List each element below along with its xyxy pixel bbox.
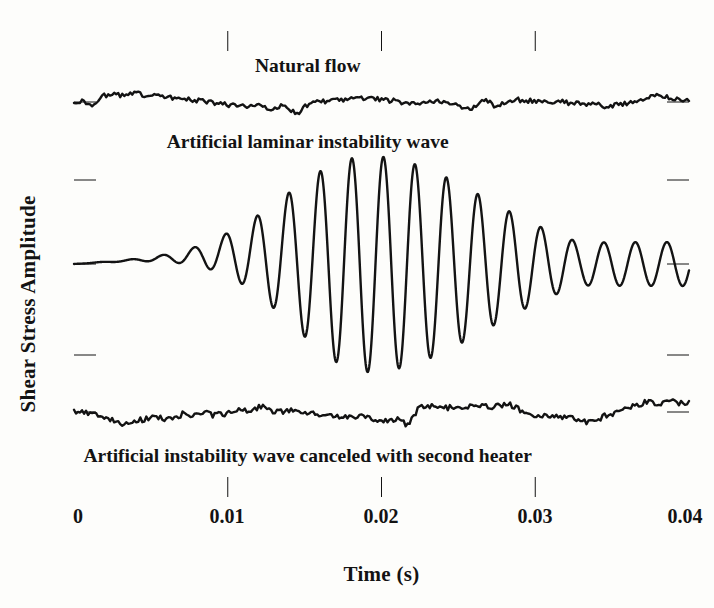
x-tick-label-1: 0.01 <box>210 505 245 528</box>
x-tick-label-3: 0.03 <box>518 505 553 528</box>
trace-2 <box>74 157 689 372</box>
chart-plot-area: Natural flowArtificial laminar instabili… <box>0 0 714 608</box>
x-tick-label-0: 0 <box>73 505 83 528</box>
figure-container: Shear Stress Amplitude Natural flowArtif… <box>0 0 714 608</box>
x-axis-title: Time (s) <box>74 562 689 587</box>
x-tick-label-2: 0.02 <box>364 505 399 528</box>
trace-annotation-1: Natural flow <box>255 55 361 76</box>
x-tick-label-4: 0.04 <box>668 505 703 528</box>
trace-3 <box>74 399 689 426</box>
trace-1 <box>74 92 689 114</box>
trace-annotation-2: Artificial laminar instability wave <box>167 131 449 152</box>
trace-annotation-3: Artificial instability wave canceled wit… <box>83 445 532 466</box>
